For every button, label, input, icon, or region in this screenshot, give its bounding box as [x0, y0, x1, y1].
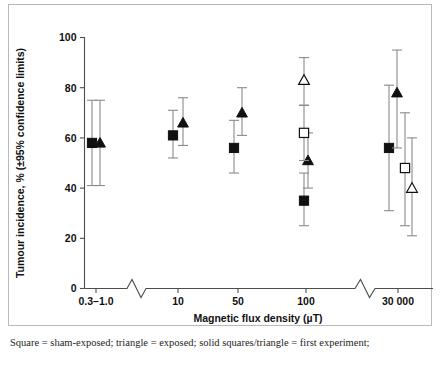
marker-open-triangle: [407, 183, 418, 193]
marker-solid-square: [299, 196, 308, 205]
y-axis-tick-label: 60: [65, 132, 77, 144]
y-axis-title: Tumour incidence, % (±95% confidence lim…: [14, 48, 26, 278]
y-axis-tick-label: 40: [65, 182, 77, 194]
y-axis-tick-label: 20: [65, 232, 77, 244]
tumour-incidence-chart: 020406080100Tumour incidence, % (±95% co…: [0, 0, 440, 330]
x-axis-tick-label: 10: [172, 295, 184, 307]
x-axis-tick-label: 30 000: [382, 295, 414, 307]
marker-solid-triangle: [392, 87, 403, 97]
x-axis-title: Magnetic flux density (µT): [193, 312, 322, 324]
marker-open-square: [400, 163, 409, 172]
y-axis-tick-label: 80: [65, 82, 77, 94]
y-axis-tick-label: 100: [59, 31, 77, 43]
marker-solid-triangle: [237, 107, 248, 117]
marker-open-square: [299, 128, 308, 137]
marker-open-triangle: [299, 75, 310, 85]
x-axis-tick-label: 100: [297, 295, 315, 307]
x-axis-tick-label: 50: [232, 295, 244, 307]
x-axis-tick-label: 0.3–1.0: [78, 295, 113, 307]
y-axis-tick-label: 0: [71, 282, 77, 294]
figure-caption: Square = sham-exposed; triangle = expose…: [10, 336, 430, 349]
marker-solid-square: [168, 131, 177, 140]
marker-solid-square: [229, 143, 238, 152]
marker-solid-triangle: [178, 117, 189, 127]
x-axis-line: [85, 280, 434, 298]
caption-line-1: Square = sham-exposed; triangle = expose…: [10, 336, 430, 349]
figure-root: 020406080100Tumour incidence, % (±95% co…: [0, 0, 440, 370]
